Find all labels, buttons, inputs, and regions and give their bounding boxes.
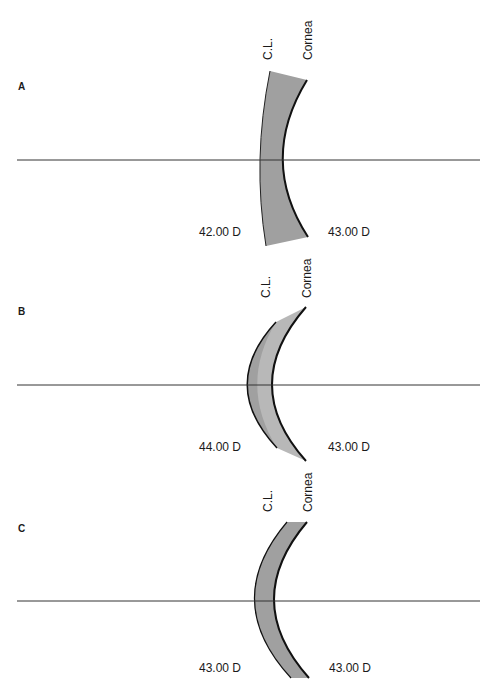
cl-label: C.L.	[261, 38, 275, 60]
panel-c: C C.L. Cornea 43.00 D 43.00 D	[17, 472, 480, 678]
cl-label: C.L.	[261, 490, 275, 512]
cl-label: C.L.	[259, 276, 273, 298]
cornea-label: Cornea	[301, 20, 315, 60]
cornea-power: 43.00 D	[328, 225, 370, 239]
panel-letter: C	[18, 523, 25, 534]
panel-b: B C.L. Cornea 44.00 D 43.00 D	[17, 258, 480, 461]
panel-a: A C.L. Cornea 42.00 D 43.00 D	[17, 20, 480, 246]
tear-lens-fill	[260, 71, 308, 246]
tear-lens-fill	[254, 522, 309, 678]
cl-power: 44.00 D	[199, 440, 241, 454]
cornea-power: 43.00 D	[329, 661, 371, 675]
cl-power: 43.00 D	[199, 661, 241, 675]
cl-power: 42.00 D	[199, 225, 241, 239]
cornea-label: Cornea	[300, 258, 314, 298]
cornea-power: 43.00 D	[328, 440, 370, 454]
panel-letter: B	[18, 306, 25, 317]
cornea-label: Cornea	[301, 472, 315, 512]
panel-letter: A	[18, 81, 25, 92]
contact-lens-diagram: A C.L. Cornea 42.00 D 43.00 D B C.L. Cor…	[0, 0, 494, 692]
